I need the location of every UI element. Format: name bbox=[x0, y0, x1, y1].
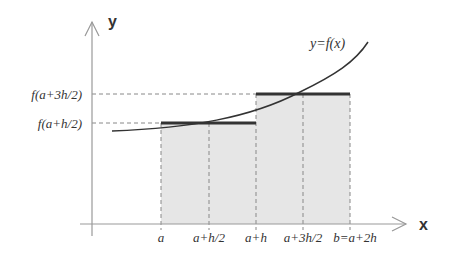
y-axis-label: y bbox=[108, 13, 117, 30]
x-tick-a-3half-h: a+3h/2 bbox=[284, 230, 323, 245]
y-tick-lower: f(a+h/2) bbox=[38, 116, 82, 131]
x-tick-b: b=a+2h bbox=[333, 230, 377, 245]
x-axis-label: x bbox=[419, 216, 428, 233]
y-tick-upper: f(a+3h/2) bbox=[31, 87, 82, 102]
curve-label: y=f(x) bbox=[308, 36, 345, 52]
x-tick-a-h: a+h bbox=[245, 230, 267, 245]
x-tick-a-half-h: a+h/2 bbox=[193, 230, 225, 245]
midpoint-rule-diagram: y x y=f(x) f(a+3h/2) f(a+h/2) a a+h/2 a+… bbox=[0, 0, 453, 257]
dashed-horizontals bbox=[92, 94, 256, 123]
x-tick-a: a bbox=[158, 230, 165, 245]
